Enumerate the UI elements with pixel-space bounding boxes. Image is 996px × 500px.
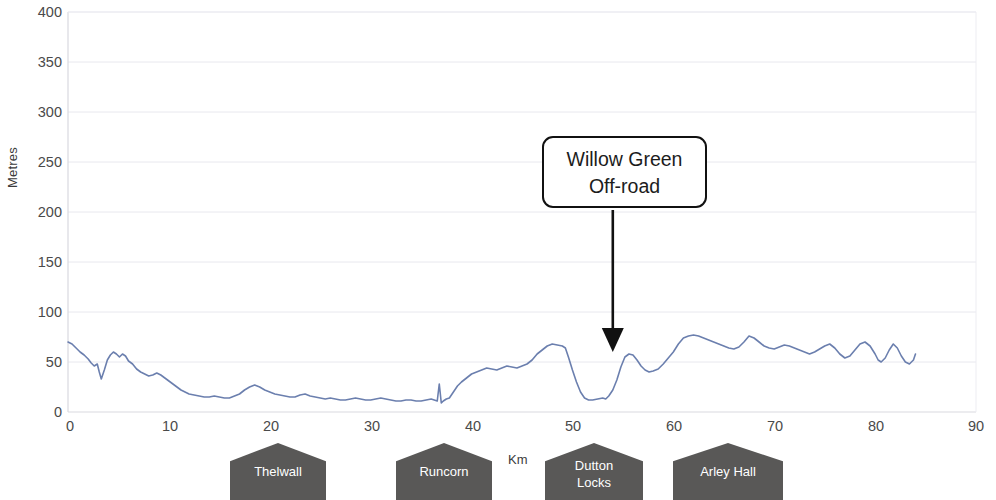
x-tick-30: 30 <box>364 418 380 434</box>
waypoint-label-arley-hall: Arley Hall <box>673 463 783 480</box>
waypoint-label-runcorn: Runcorn <box>396 463 492 480</box>
annotation-arrow-head <box>602 328 624 352</box>
x-tick-20: 20 <box>263 418 279 434</box>
plot-area <box>0 0 996 500</box>
x-tick-60: 60 <box>666 418 682 434</box>
x-tick-10: 10 <box>162 418 178 434</box>
x-tick-80: 80 <box>868 418 884 434</box>
x-tick-40: 40 <box>465 418 481 434</box>
x-tick-70: 70 <box>767 418 783 434</box>
annotation-callout-willow-green: Willow Green Off-road <box>542 136 707 208</box>
x-axis-title: Km <box>508 452 528 467</box>
x-tick-90: 90 <box>968 418 984 434</box>
callout-line-1: Willow Green <box>544 146 705 173</box>
elevation-line <box>68 335 915 403</box>
waypoint-label-thelwall: Thelwall <box>230 463 326 480</box>
waypoint-label-dutton-line-1: Dutton <box>545 457 643 474</box>
callout-line-2: Off-road <box>544 173 705 200</box>
elevation-profile-chart: Metres 400 350 300 250 200 150 100 50 0 … <box>0 0 996 500</box>
waypoint-label-dutton-line-2: Locks <box>545 474 643 491</box>
x-tick-0: 0 <box>66 418 74 434</box>
x-tick-50: 50 <box>565 418 581 434</box>
